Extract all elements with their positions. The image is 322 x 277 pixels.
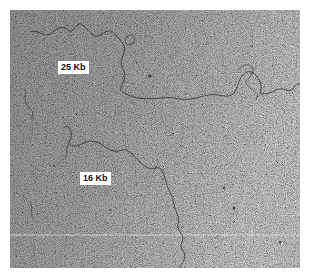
label-25kb: 25 Kb [58,61,89,74]
label-16kb: 16 Kb [80,172,111,185]
figure-frame: 25 Kb 16 Kb [0,0,322,277]
micrograph-image [10,10,300,268]
dna-micrograph [10,10,300,268]
